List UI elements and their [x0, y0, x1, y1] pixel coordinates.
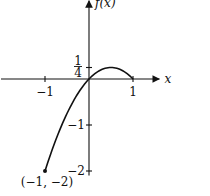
y-axis-label: f(x) — [94, 0, 116, 10]
annotations: (−1, −2) — [21, 169, 73, 189]
endpoint-label: (−1, −2) — [21, 175, 73, 189]
y-tick-fraction-label: 14 — [74, 54, 82, 80]
x-axis-label: x — [164, 72, 171, 86]
endpoint-dot — [43, 169, 47, 173]
fraction-denominator: 4 — [74, 66, 82, 80]
x-tick-label: −1 — [36, 85, 54, 99]
x-tick-label: 1 — [129, 85, 137, 99]
function-plot: x f(x) −11 14−1−2 (−1, −2) — [0, 0, 210, 196]
y-tick-label: −1 — [67, 118, 85, 132]
y-ticks: 14−1−2 — [67, 54, 92, 179]
